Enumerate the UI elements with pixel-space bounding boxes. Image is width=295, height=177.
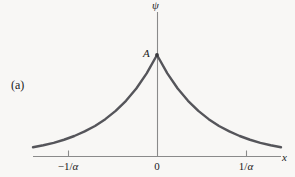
x-axis-label: x	[282, 152, 287, 163]
figure-panel: (a) ψ x A −1/α 0 1/α	[0, 0, 295, 177]
x-tick-label-negative: −1/α	[48, 161, 88, 172]
y-axis-label: ψ	[152, 0, 159, 11]
tick-pos-symbol: α	[247, 160, 253, 172]
plot-area	[0, 0, 295, 177]
tick-neg-sign: −1/	[58, 160, 73, 172]
x-tick-label-zero: 0	[147, 161, 167, 172]
peak-marker	[155, 53, 159, 57]
amplitude-label: A	[143, 48, 150, 59]
tick-neg-symbol: α	[72, 160, 78, 172]
x-tick-label-positive: 1/α	[229, 161, 263, 172]
panel-label: (a)	[11, 79, 24, 91]
